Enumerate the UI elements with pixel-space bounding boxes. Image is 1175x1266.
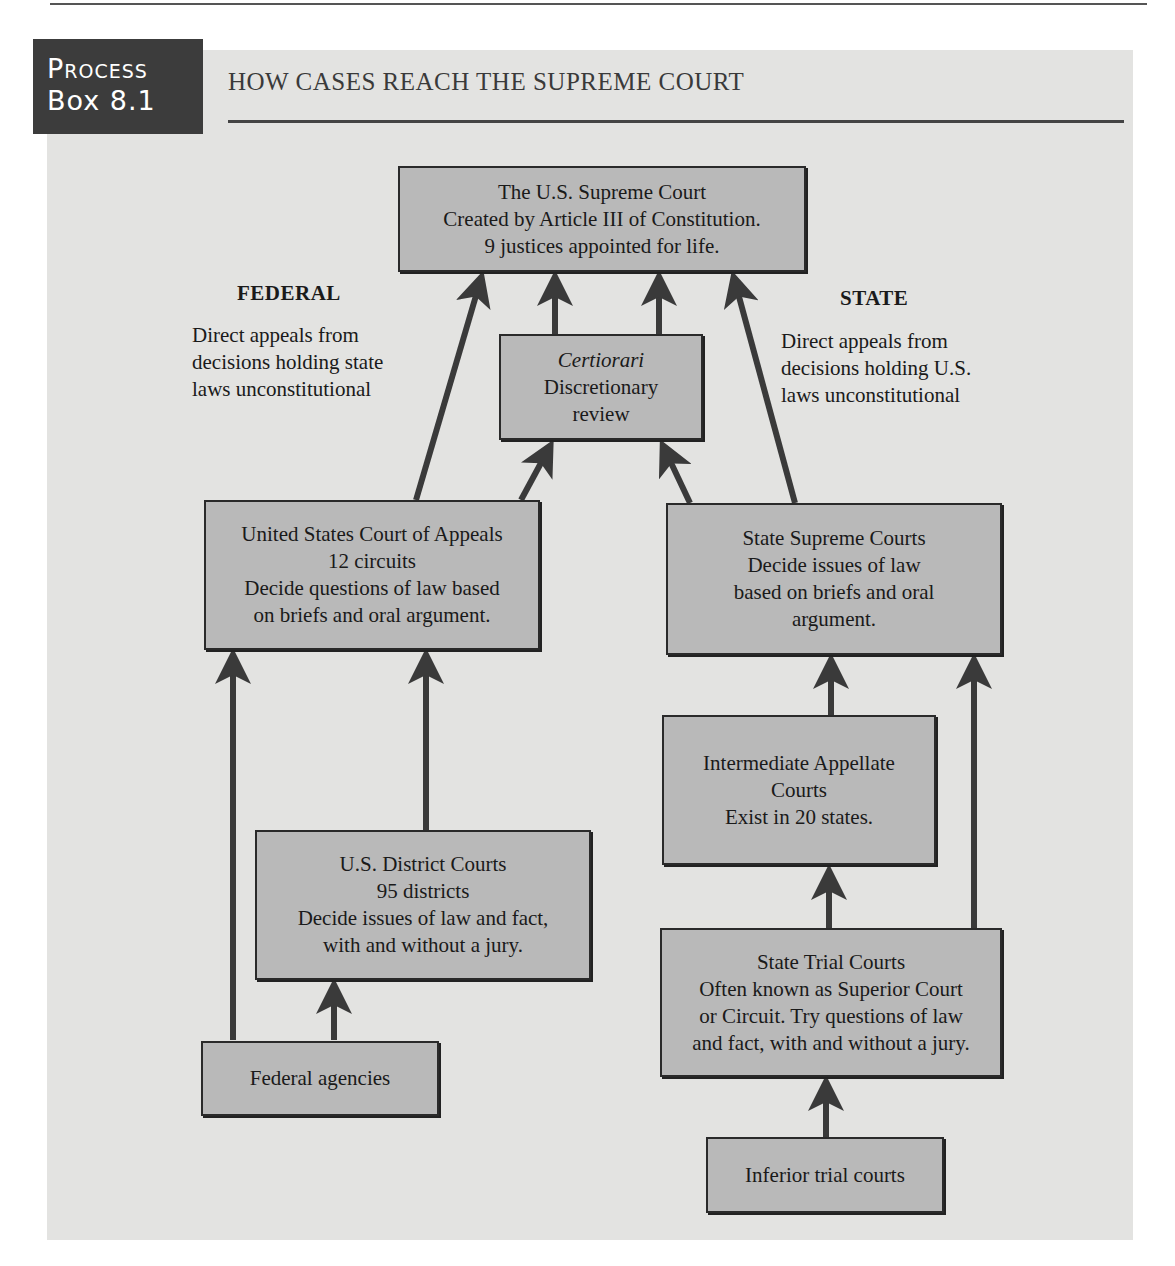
state-trial-courts-box: State Trial Courts Often known as Superi… <box>660 928 1002 1077</box>
federal-note-line: laws unconstitutional <box>192 376 383 403</box>
federal-note-line: Direct appeals from <box>192 322 383 349</box>
box-line: 12 circuits <box>241 548 502 575</box>
district-courts-box: U.S. District Courts 95 districts Decide… <box>255 830 591 980</box>
box-line: argument. <box>734 606 935 633</box>
box-line: The U.S. Supreme Court <box>443 179 760 206</box>
box-line: 95 districts <box>298 878 549 905</box>
box-line: U.S. District Courts <box>298 851 549 878</box>
box-line: State Trial Courts <box>692 949 969 976</box>
box-line: Certiorari <box>544 347 658 374</box>
box-line: Created by Article III of Constitution. <box>443 206 760 233</box>
box-line: with and without a jury. <box>298 932 549 959</box>
state-heading: STATE <box>840 286 908 311</box>
box-line: based on briefs and oral <box>734 579 935 606</box>
state-note: Direct appeals from decisions holding U.… <box>781 328 971 409</box>
box-line: Intermediate Appellate <box>703 750 895 777</box>
box-line: review <box>544 401 658 428</box>
state-supreme-courts-box: State Supreme Courts Decide issues of la… <box>666 503 1002 655</box>
federal-heading: FEDERAL <box>237 281 341 306</box>
box-line: Exist in 20 states. <box>703 804 895 831</box>
certiorari-box: Certiorari Discretionary review <box>499 334 703 440</box>
inferior-trial-courts-box: Inferior trial courts <box>706 1137 944 1213</box>
box-line: and fact, with and without a jury. <box>692 1030 969 1057</box>
arrow-appeals-to-cert <box>521 450 548 500</box>
arrow-appeals-to-supreme <box>416 282 480 500</box>
federal-note-line: decisions holding state <box>192 349 383 376</box>
box-line: on briefs and oral argument. <box>241 602 502 629</box>
federal-note: Direct appeals from decisions holding st… <box>192 322 383 403</box>
state-note-line: decisions holding U.S. <box>781 355 971 382</box>
box-line: or Circuit. Try questions of law <box>692 1003 969 1030</box>
state-note-line: Direct appeals from <box>781 328 971 355</box>
box-line: State Supreme Courts <box>734 525 935 552</box>
box-line: 9 justices appointed for life. <box>443 233 760 260</box>
box-line: Decide issues of law and fact, <box>298 905 549 932</box>
arrow-statesup-to-cert <box>665 450 690 503</box>
box-line: Discretionary <box>544 374 658 401</box>
box-line: Often known as Superior Court <box>692 976 969 1003</box>
federal-agencies-box: Federal agencies <box>201 1041 439 1116</box>
state-note-line: laws unconstitutional <box>781 382 971 409</box>
intermediate-appellate-box: Intermediate Appellate Courts Exist in 2… <box>662 715 936 865</box>
court-of-appeals-box: United States Court of Appeals 12 circui… <box>204 500 540 650</box>
box-line: United States Court of Appeals <box>241 521 502 548</box>
box-line: Inferior trial courts <box>745 1162 905 1189</box>
box-line: Decide issues of law <box>734 552 935 579</box>
box-line: Courts <box>703 777 895 804</box>
supreme-court-box: The U.S. Supreme Court Created by Articl… <box>398 166 806 272</box>
box-line: Decide questions of law based <box>241 575 502 602</box>
box-line: Federal agencies <box>250 1065 391 1092</box>
